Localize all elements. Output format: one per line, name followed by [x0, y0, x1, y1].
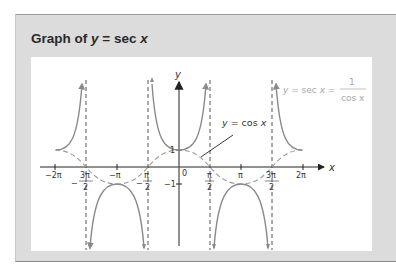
svg-text:2: 2 [207, 183, 212, 192]
svg-text:2: 2 [269, 183, 274, 192]
svg-text:π: π [238, 171, 243, 180]
svg-text:1: 1 [349, 77, 355, 87]
sec-branch-2 [90, 184, 144, 248]
svg-text:−2π: −2π [45, 171, 62, 180]
svg-text:cos x: cos x [341, 93, 365, 103]
svg-text:−: − [71, 179, 78, 188]
svg-text:2: 2 [83, 183, 88, 192]
svg-text:2π: 2π [296, 171, 306, 180]
tick-labels: −2π −π π 2π 0 1 −1 − 3π 2 − π 2 π 2 3π 2 [45, 146, 306, 192]
svg-text:π: π [144, 171, 149, 180]
svg-text:−1: −1 [164, 180, 176, 189]
svg-text:1: 1 [170, 146, 175, 155]
svg-text:2: 2 [145, 183, 150, 192]
sec-branch-4 [214, 184, 268, 248]
y-axis-label: y [174, 69, 182, 80]
svg-text:−: − [136, 179, 143, 188]
cos-leader-line [201, 135, 233, 157]
svg-text:3π: 3π [266, 171, 276, 180]
svg-text:0: 0 [182, 169, 187, 178]
sec-annotation: y = sec x = 1 cos x [282, 77, 366, 103]
svg-text:−π: −π [109, 171, 121, 180]
sec-branch-1 [56, 84, 82, 150]
x-axis-label: x [328, 162, 335, 173]
svg-text:3π: 3π [80, 171, 90, 180]
svg-text:π: π [207, 171, 212, 180]
svg-text:y = sec x =: y = sec x = [282, 85, 335, 95]
cos-annotation: y = cos x [221, 117, 267, 128]
